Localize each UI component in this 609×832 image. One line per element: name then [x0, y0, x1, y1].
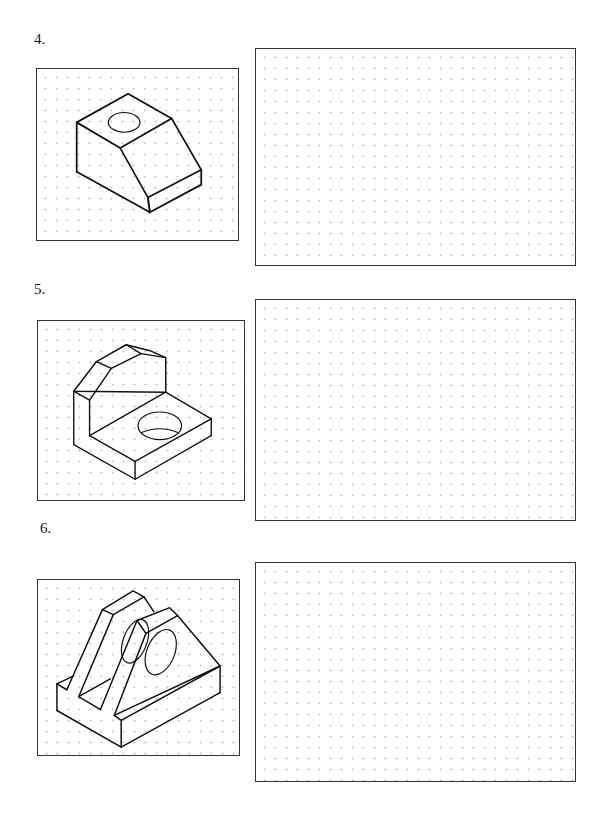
answer-grid-5[interactable] [255, 299, 576, 521]
answer-grid-4[interactable] [255, 48, 576, 266]
answer-grid-6[interactable] [255, 562, 576, 782]
exercise-number-4: 4. [34, 31, 45, 48]
exercise-number-6: 6. [40, 520, 51, 537]
isometric-figure-4 [36, 68, 239, 241]
exercise-number-5: 5. [34, 281, 45, 298]
isometric-figure-5 [37, 320, 245, 501]
isometric-figure-6 [37, 579, 240, 756]
figure-5-drawing [38, 321, 244, 500]
figure-4-drawing [37, 69, 238, 240]
figure-6-drawing [38, 580, 239, 755]
